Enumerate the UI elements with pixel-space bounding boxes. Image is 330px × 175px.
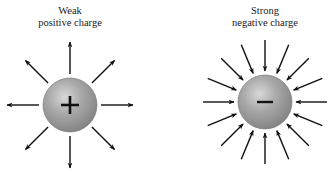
positive-charge-sphere (43, 78, 97, 132)
field-arrow (92, 60, 115, 83)
field-arrow (92, 127, 115, 150)
field-arrow (294, 78, 323, 90)
field-arrow (208, 78, 237, 90)
field-arrow (277, 45, 289, 74)
negative-charge-sphere (238, 75, 292, 129)
field-arrow (287, 58, 309, 80)
field-arrow (241, 45, 253, 74)
field-arrow (294, 114, 323, 126)
electric-field-diagram (0, 0, 330, 175)
field-arrow (241, 131, 253, 160)
field-arrow (287, 124, 309, 146)
field-arrow (25, 60, 48, 83)
field-arrow (25, 127, 48, 150)
field-arrow (221, 58, 243, 80)
field-arrow (277, 131, 289, 160)
field-arrow (221, 124, 243, 146)
field-arrow (208, 114, 237, 126)
